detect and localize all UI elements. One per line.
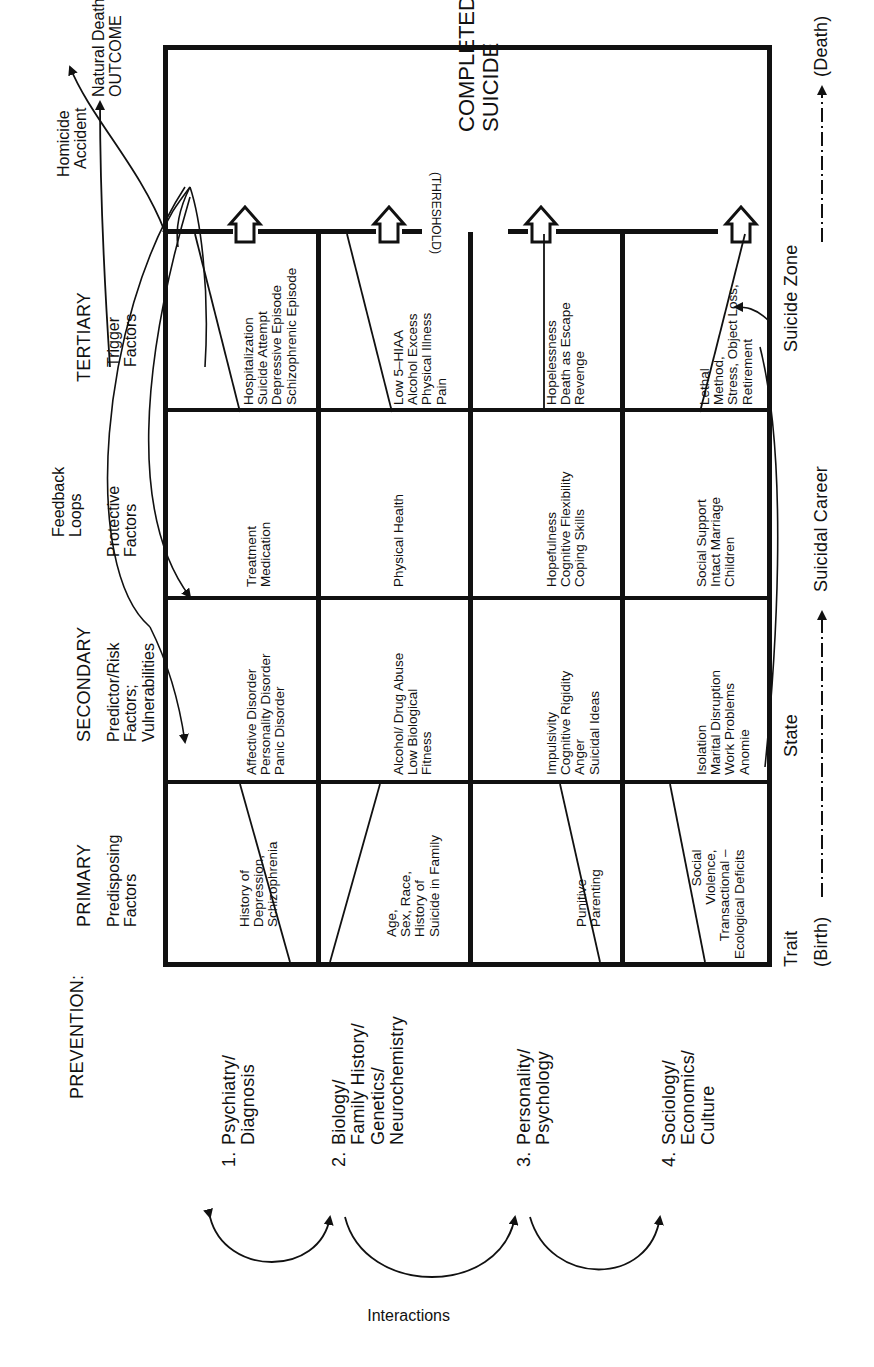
- interactions-arcs: [210, 1217, 660, 1277]
- suicidal-career-diagram: PREVENTION: 1. Psychiatry/ Diagnosis 2. …: [0, 0, 874, 1367]
- career-curve: [760, 347, 778, 767]
- tertiary-wedge-lines: [195, 234, 745, 412]
- suicide-zone-arrow: [735, 307, 770, 322]
- primary-wedge-lines: [240, 784, 705, 962]
- threshold-arrow-icon: [230, 207, 756, 242]
- outcome-arrows: [70, 67, 165, 367]
- diagram-lines: [0, 0, 874, 1367]
- feedback-loop-curves: [108, 187, 207, 742]
